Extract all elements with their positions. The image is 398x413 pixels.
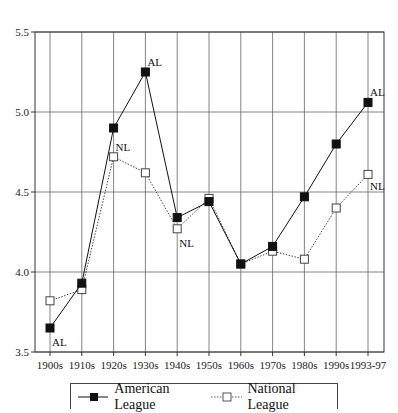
open-square-marker [332,204,340,212]
x-tick-label: 1980s [291,359,317,371]
x-axis-ticks: 1900s1910s1920s1930s1940s1950s1960s1970s… [37,352,387,371]
grid-lines [35,32,384,352]
filled-square-marker [332,140,340,148]
filled-square-marker [300,193,308,201]
open-square-marker [141,169,149,177]
line-chart: 3.54.04.55.05.5 1900s1910s1920s1930s1940… [0,0,398,383]
legend-label: National League [248,381,334,413]
filled-square-marker [110,124,118,132]
open-square-marker [46,297,54,305]
filled-square-marker [237,260,245,268]
x-tick-label: 1993-97 [350,359,387,371]
x-tick-label: 1960s [228,359,254,371]
annotation-label: NL [116,141,131,153]
filled-square-marker [173,214,181,222]
annotation-label: NL [179,237,194,249]
y-tick-label: 3.5 [15,346,29,358]
open-square-marker-icon [210,391,241,403]
y-tick-label: 5.5 [15,26,29,38]
open-square-marker [110,153,118,161]
open-square-marker [300,255,308,263]
annotation-label: NL [370,180,385,192]
y-axis-ticks: 3.54.04.55.05.5 [15,26,35,358]
legend-label: American League [114,381,206,413]
filled-square-marker [205,198,213,206]
x-tick-label: 1970s [259,359,285,371]
x-tick-label: 1900s [37,359,63,371]
filled-square-marker [46,324,54,332]
x-tick-label: 1940s [164,359,190,371]
open-square-marker [173,225,181,233]
annotation-label: AL [147,56,162,68]
annotation-label: AL [52,336,67,348]
y-tick-label: 5.0 [15,106,29,118]
annotation-label: AL [370,86,385,98]
x-tick-label: 1950s [196,359,222,371]
legend-item-american-league: American League [77,381,206,413]
x-tick-label: 1910s [69,359,95,371]
legend-item-national-league: National League [210,381,333,413]
x-tick-label: 1930s [132,359,158,371]
chart-legend: American League National League [70,383,338,409]
filled-square-marker-icon [77,391,108,403]
y-tick-label: 4.5 [15,186,29,198]
data-annotations: ALALALNLNLNL [52,56,385,348]
open-square-marker [364,170,372,178]
filled-square-marker [141,68,149,76]
x-tick-label: 1920s [100,359,126,371]
filled-square-marker [269,242,277,250]
y-tick-label: 4.0 [15,266,29,278]
x-tick-label: 1990s [323,359,349,371]
filled-square-marker [364,98,372,106]
filled-square-marker [78,279,86,287]
